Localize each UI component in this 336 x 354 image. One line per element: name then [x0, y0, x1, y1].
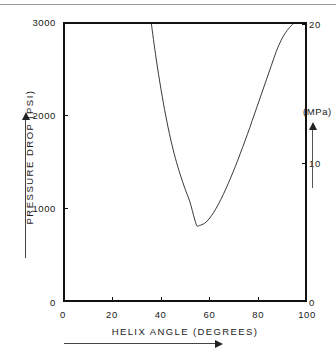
y-tick-2000: [63, 115, 68, 116]
x-axis-arrow-icon: [215, 340, 223, 348]
x-tick-40: [161, 297, 162, 302]
y-axis-title-text: PRESSURE DROP (PSI): [24, 90, 35, 225]
y2-tick-20: [302, 24, 307, 25]
y2-axis-title-text: (MPa): [303, 106, 332, 117]
x-axis-title-text: HELIX ANGLE (DEGREES): [63, 326, 307, 337]
y2-tick-10: [302, 163, 307, 164]
y2-tick-label-0: 0: [309, 298, 315, 308]
x-tick-label-100: 100: [293, 310, 321, 320]
x-tick-60: [209, 297, 210, 302]
x-tick-20: [112, 297, 113, 302]
y-tick-label-0: 0: [18, 298, 56, 308]
x-tick-80: [258, 297, 259, 302]
y2-tick-label-10: 10: [309, 159, 321, 169]
y-tick-1000: [63, 208, 68, 209]
x-tick-label-80: 80: [244, 310, 272, 320]
plot-area: [63, 22, 307, 302]
x-axis-direction-rule: [64, 343, 216, 344]
x-tick-label-40: 40: [147, 310, 175, 320]
page-separator-rule: [0, 4, 336, 5]
y2-axis-direction-rule: [312, 128, 313, 188]
pressure-drop-curve: [65, 24, 305, 300]
x-tick-label-60: 60: [195, 310, 223, 320]
y-axis-title: PRESSURE DROP (PSI): [19, 87, 33, 227]
y2-axis-arrow-icon: [309, 122, 317, 130]
y2-tick-label-20: 20: [309, 20, 321, 30]
y-tick-label-3000: 3000: [18, 18, 56, 28]
x-tick-label-20: 20: [98, 310, 126, 320]
x-tick-label-0: 0: [49, 310, 77, 320]
